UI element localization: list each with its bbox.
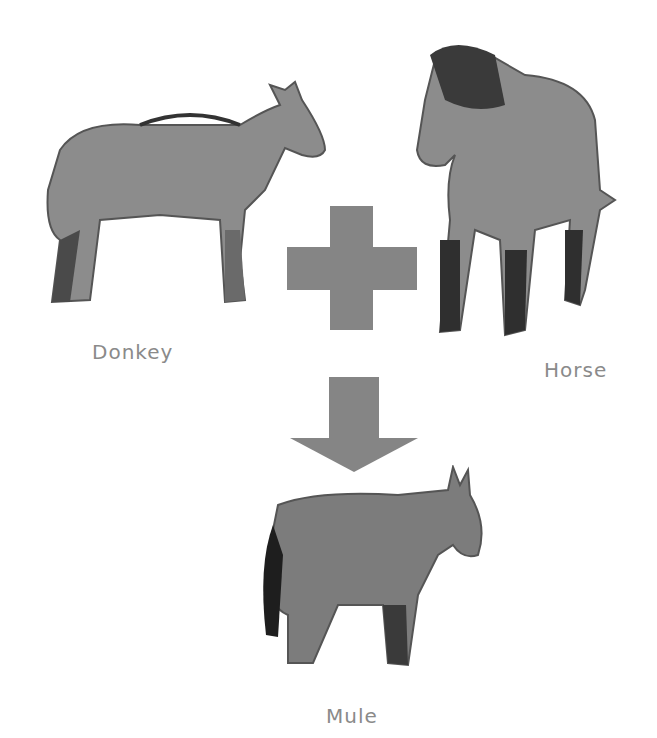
down-arrow-icon [329,377,379,439]
donkey-label: Donkey [92,340,173,364]
horse-illustration [415,40,625,345]
horse-label: Horse [544,358,607,382]
mule-label: Mule [326,704,378,728]
mule-illustration [258,465,488,670]
plus-icon-horizontal [287,247,417,290]
